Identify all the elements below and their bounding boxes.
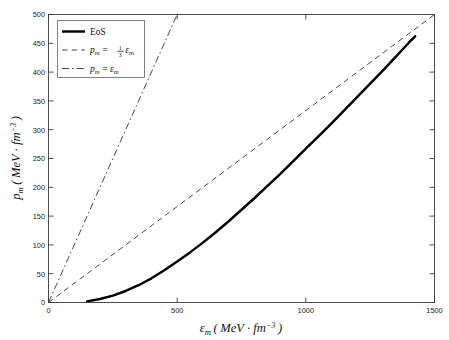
y-tick-label-150: 150 [33,212,45,221]
y-tick-label-0: 0 [41,298,45,307]
y-tick-label-200: 200 [33,183,45,192]
eos-pressure-energy-density-plot: 0 50 100 150 200 250 300 350 400 450 500… [0,0,449,340]
x-tick-label-0: 0 [46,306,50,315]
y-axis-unit-exp: −3 [9,123,18,133]
x-axis-unit-close: ) [277,321,282,335]
svg-text:pm =: pm = [89,44,110,56]
x-tick-label-1000: 1000 [298,306,314,315]
y-tick-label-450: 450 [33,39,45,48]
y-tick-label-250: 250 [33,154,45,163]
y-axis-label-symbol: p [9,194,23,201]
x-axis-tick-labels: 0 500 1000 1500 [46,306,442,315]
x-axis-label: εm ( MeV · fm−3 ) [200,321,282,337]
legend-fraction-denominator: 3 [119,51,122,58]
x-axis-unit-body: MeV · fm [219,321,266,335]
legend-label-eos: EoS [90,27,106,37]
svg-text:pm ( MeV · fm−3 ): pm ( MeV · fm−3 ) [9,116,25,201]
y-axis-unit-close: ) [9,116,23,121]
x-axis-unit-exp: −3 [266,321,276,330]
y-tick-label-350: 350 [33,97,45,106]
x-tick-label-500: 500 [171,306,183,315]
legend-label-third-rhs-sub: m [129,49,134,56]
y-axis-label: pm ( MeV · fm−3 ) [9,116,25,201]
y-axis-unit-body: MeV · fm [9,132,23,179]
y-tick-label-50: 50 [37,270,45,279]
chart-figure: 0 50 100 150 200 250 300 350 400 450 500… [0,0,449,340]
y-tick-label-400: 400 [33,68,45,77]
y-tick-label-100: 100 [33,241,45,250]
x-tick-label-1500: 1500 [426,306,442,315]
legend: EoS pm = 1 3 εm pm = εm [58,21,145,78]
y-axis-tick-labels: 0 50 100 150 200 250 300 350 400 450 500 [33,10,45,307]
legend-label-eps-rhs-sub: m [114,68,119,75]
y-tick-label-300: 300 [33,126,45,135]
svg-text:εm ( MeV · fm−3 ): εm ( MeV · fm−3 ) [200,321,282,337]
y-tick-label-500: 500 [33,10,45,19]
